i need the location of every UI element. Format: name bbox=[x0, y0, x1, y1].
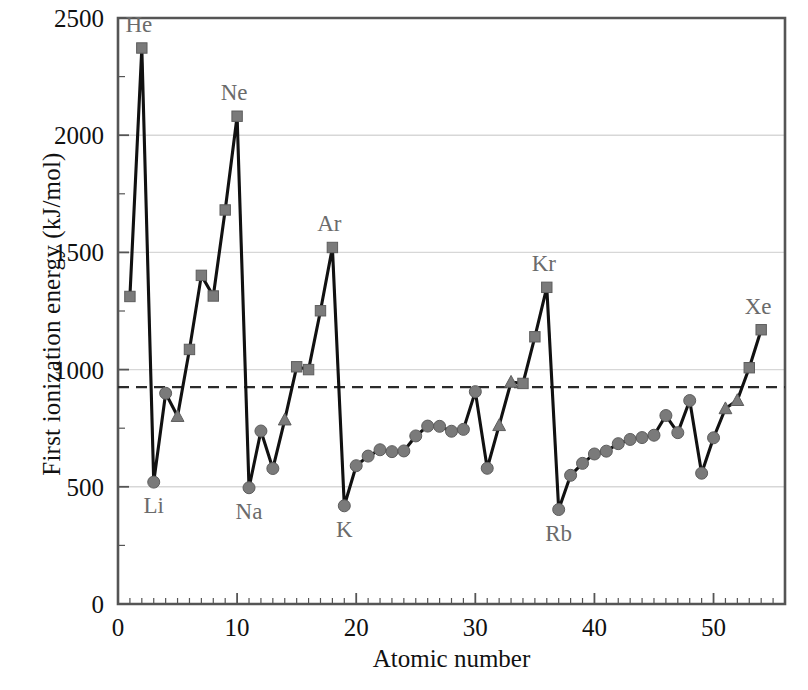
data-point-Sc bbox=[362, 450, 374, 462]
data-point-Ge bbox=[493, 419, 506, 431]
data-point-B bbox=[171, 410, 184, 422]
data-point-Ni bbox=[446, 425, 458, 437]
data-point-Ca bbox=[350, 460, 362, 472]
annotation-Ar: Ar bbox=[317, 211, 342, 236]
data-markers bbox=[125, 43, 767, 516]
x-tick-label-40: 40 bbox=[582, 614, 607, 641]
data-point-Nb bbox=[600, 445, 612, 457]
data-point-Zn bbox=[469, 386, 481, 398]
annotation-K: K bbox=[336, 517, 353, 542]
x-tick-label-0: 0 bbox=[112, 614, 125, 641]
data-point-Li bbox=[148, 476, 160, 488]
data-point-Zr bbox=[588, 448, 600, 460]
y-axis-minor-ticks bbox=[118, 18, 129, 604]
element-annotations: HeNeArKrXeLiNaKRb bbox=[125, 12, 771, 546]
data-point-Ti bbox=[374, 444, 386, 456]
data-point-Cl bbox=[315, 306, 325, 316]
data-point-Co bbox=[434, 420, 446, 432]
data-point-V bbox=[386, 446, 398, 458]
data-point-Rb bbox=[553, 504, 565, 516]
data-point-O bbox=[208, 291, 218, 301]
x-tick-label-30: 30 bbox=[463, 614, 488, 641]
annotation-He: He bbox=[125, 12, 152, 37]
data-point-In bbox=[696, 467, 708, 479]
ionization-energy-figure: 05001000150020002500 01020304050 HeNeArK… bbox=[0, 0, 808, 690]
chart-canvas: 05001000150020002500 01020304050 HeNeArK… bbox=[0, 0, 808, 690]
y-tick-label-2500: 2500 bbox=[54, 5, 104, 32]
data-point-Xe bbox=[756, 325, 766, 335]
annotation-Na: Na bbox=[236, 499, 263, 524]
data-point-Al bbox=[267, 463, 279, 475]
data-point-Tc bbox=[624, 433, 636, 445]
data-point-H bbox=[125, 291, 135, 301]
data-point-Cr bbox=[398, 445, 410, 457]
y-tick-label-0: 0 bbox=[92, 591, 105, 618]
x-tick-label-20: 20 bbox=[344, 614, 369, 641]
x-axis-title: Atomic number bbox=[118, 645, 785, 673]
data-point-Ar bbox=[327, 242, 337, 252]
data-polyline bbox=[130, 48, 761, 510]
data-point-N bbox=[196, 270, 206, 280]
data-point-K bbox=[338, 500, 350, 512]
data-point-S bbox=[303, 364, 313, 374]
data-point-Ga bbox=[481, 462, 493, 474]
data-point-Sn bbox=[708, 432, 720, 444]
x-tick-label-10: 10 bbox=[225, 614, 250, 641]
data-point-P bbox=[291, 362, 301, 372]
data-point-C bbox=[184, 344, 194, 354]
data-point-Mg bbox=[255, 425, 267, 437]
x-axis-minor-ticks bbox=[118, 593, 785, 604]
data-point-Cd bbox=[684, 395, 696, 407]
data-point-Ag bbox=[672, 427, 684, 439]
data-point-Cu bbox=[457, 423, 469, 435]
annotation-Kr: Kr bbox=[532, 251, 557, 276]
y-axis-title: First ionization energy (kJ/mol) bbox=[38, 34, 66, 594]
annotation-Ne: Ne bbox=[221, 80, 248, 105]
data-point-Kr bbox=[542, 282, 552, 292]
annotation-Xe: Xe bbox=[745, 294, 772, 319]
data-point-Br bbox=[530, 332, 540, 342]
data-point-Ru bbox=[636, 432, 648, 444]
x-axis-tick-labels: 01020304050 bbox=[112, 614, 726, 641]
annotation-Rb: Rb bbox=[545, 521, 572, 546]
data-point-Ne bbox=[232, 111, 242, 121]
data-point-Sr bbox=[565, 469, 577, 481]
data-point-Y bbox=[577, 457, 589, 469]
x-tick-label-50: 50 bbox=[701, 614, 726, 641]
annotation-Li: Li bbox=[144, 493, 164, 518]
data-point-Fe bbox=[422, 420, 434, 432]
data-point-Mn bbox=[410, 430, 422, 442]
data-point-Rh bbox=[648, 429, 660, 441]
data-point-Pd bbox=[660, 410, 672, 422]
data-point-Be bbox=[160, 387, 172, 399]
data-point-F bbox=[220, 205, 230, 215]
data-point-He bbox=[137, 43, 147, 53]
data-point-Na bbox=[243, 482, 255, 494]
plot-frame bbox=[118, 18, 785, 604]
data-point-Mo bbox=[612, 438, 624, 450]
y-tick-label-500: 500 bbox=[67, 474, 105, 501]
data-point-Si bbox=[278, 413, 291, 425]
data-point-I bbox=[744, 363, 754, 373]
data-point-Te bbox=[731, 394, 744, 406]
data-point-Se bbox=[518, 378, 528, 388]
